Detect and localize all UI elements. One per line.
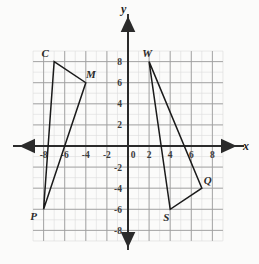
x-axis-label: x [242,139,249,153]
vertex-label-c: C [41,47,49,59]
y-tick--4: -4 [114,184,122,194]
x-tick--4: -4 [82,150,90,160]
y-tick--2: -2 [114,163,122,173]
y-tick--6: -6 [114,205,122,215]
y-axis-label: y [119,2,127,16]
origin-label: 0 [131,150,136,160]
y-tick-8: 8 [117,57,122,67]
vertex-label-w: W [142,47,153,59]
x-tick-2: 2 [147,150,152,160]
coordinate-plane-figure: -8-6-4-224688642-2-4-6-80 x y CMPWQS [0,0,259,264]
y-tick-6: 6 [117,78,122,88]
vertex-label-m: M [85,68,97,80]
figure-background [0,0,259,264]
y-tick-2: 2 [117,120,122,130]
vertex-label-p: P [30,210,37,222]
vertex-label-s: S [163,211,169,223]
x-tick-4: 4 [168,150,173,160]
x-tick--2: -2 [103,150,111,160]
y-tick--8: -8 [114,226,122,236]
x-tick-8: 8 [210,150,215,160]
vertex-label-q: Q [204,174,212,186]
y-tick-4: 4 [117,99,122,109]
